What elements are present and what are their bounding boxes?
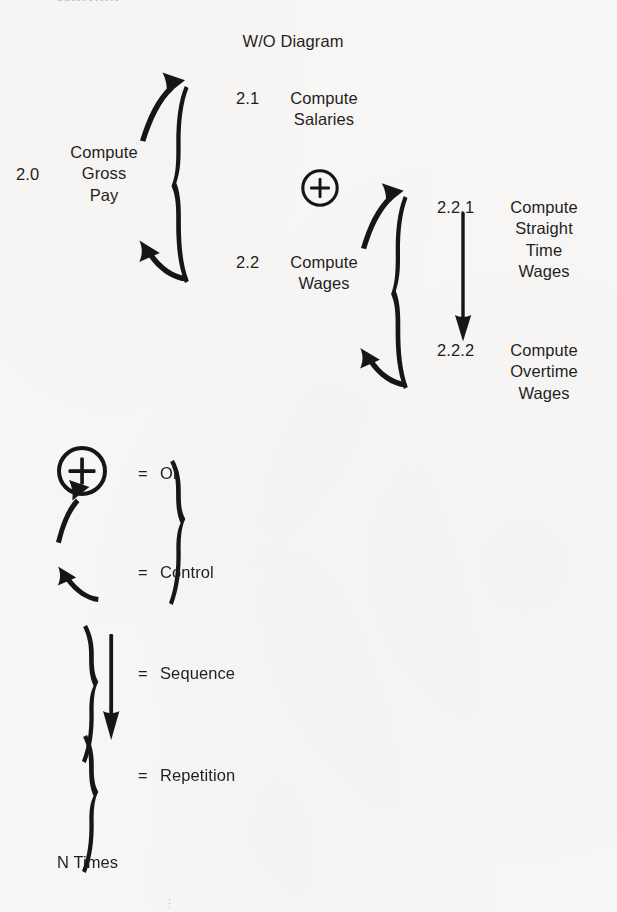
node-2-2-2-label: ComputeOvertimeWages xyxy=(492,340,596,404)
node-2-2-1-line-1: Compute xyxy=(510,198,578,216)
scanned-page: Warnier W/O Diagram xyxy=(0,0,617,912)
node-2-0-line-2: Gross xyxy=(82,164,127,182)
page-top-cutoff-artifact: Warnier xyxy=(55,0,225,1)
node-2-2-1-line-3: Time xyxy=(526,241,562,259)
node-2-2-label: ComputeWages xyxy=(272,252,376,295)
node-2-2-1-line-2: Straight xyxy=(515,219,573,237)
node-2-2-line-2: Wages xyxy=(298,274,349,292)
node-2-1-label: ComputeSalaries xyxy=(272,88,376,131)
page-bottom-speckle-artifact: ⋮ xyxy=(164,896,174,910)
node-2-2-2-line-3: Wages xyxy=(518,384,569,402)
node-2-0-line-3: Pay xyxy=(90,186,119,204)
page-title: W/O Diagram xyxy=(193,31,393,52)
node-2-0-line-1: Compute xyxy=(70,143,138,161)
node-2-1-line-2: Salaries xyxy=(294,110,354,128)
legend-or-label: Or xyxy=(160,463,300,484)
node-2-1-line-1: Compute xyxy=(290,89,358,107)
legend-repetition-label: Repetition xyxy=(160,765,320,786)
node-2-2-2-number: 2.2.2 xyxy=(437,340,493,361)
node-2-2-2-line-1: Compute xyxy=(510,341,578,359)
node-2-0-number: 2.0 xyxy=(16,164,60,185)
node-2-2-1-line-4: Wages xyxy=(518,262,569,280)
node-2-0-label: ComputeGrossPay xyxy=(58,142,150,206)
legend-footnote-n-times: N Times xyxy=(57,852,217,873)
node-2-2-1-number: 2.2.1 xyxy=(437,197,493,218)
node-2-2-2-line-2: Overtime xyxy=(510,362,578,380)
node-2-2-1-label: ComputeStraightTimeWages xyxy=(492,197,596,283)
legend-sequence-label: Sequence xyxy=(160,663,310,684)
node-2-2-line-1: Compute xyxy=(290,253,358,271)
legend-control-label: Control xyxy=(160,562,300,583)
